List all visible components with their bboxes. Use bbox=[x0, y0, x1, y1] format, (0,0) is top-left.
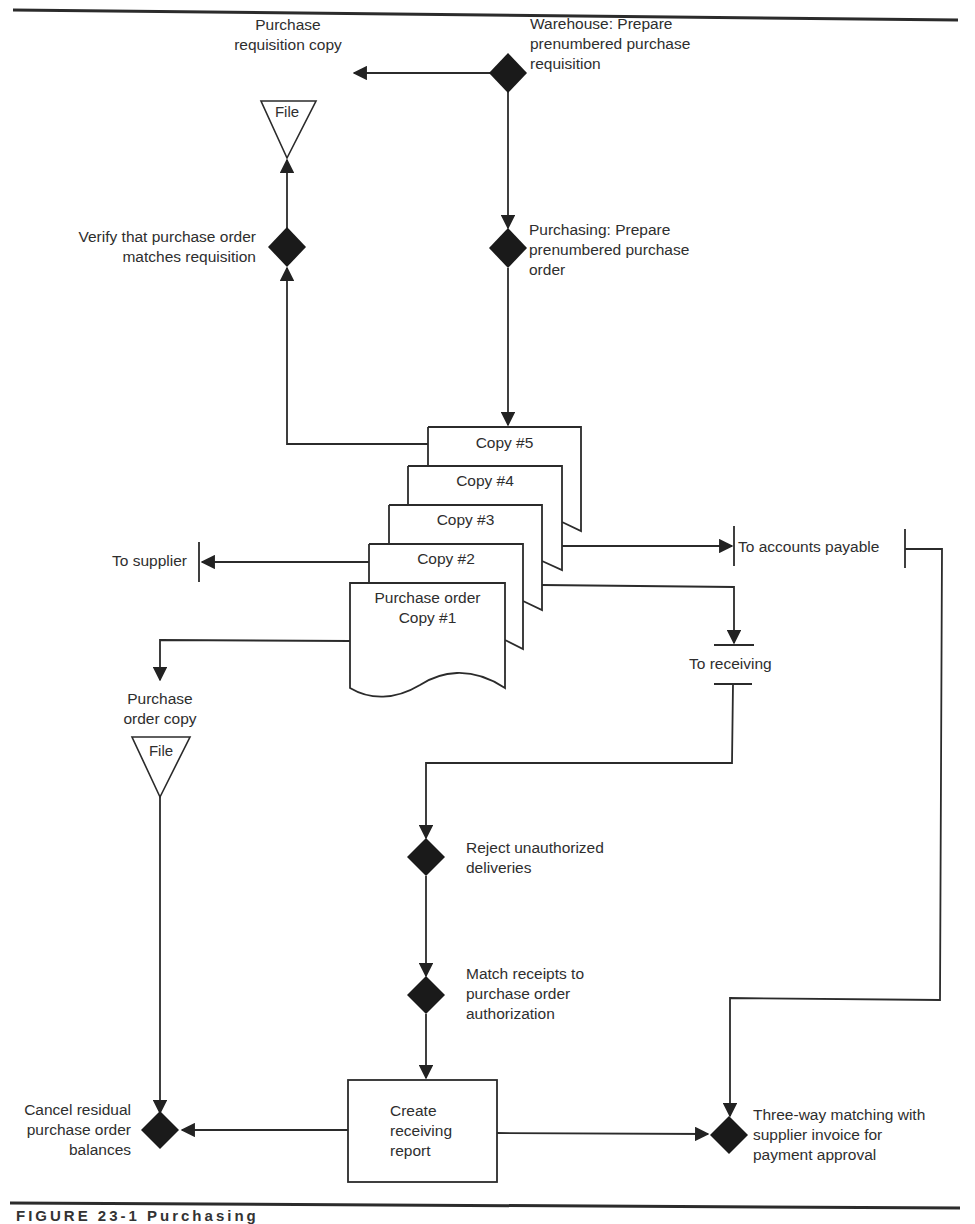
label-cancel: Cancel residual purchase order balances bbox=[10, 1100, 131, 1160]
label-copy-5: Copy #5 bbox=[428, 433, 581, 453]
arrow-receiving-to-reject bbox=[426, 684, 733, 838]
label-requisition-copy: Purchase requisition copy bbox=[229, 15, 347, 55]
diamond-match bbox=[407, 976, 445, 1014]
label-purchasing: Purchasing: Prepare prenumbered purchase… bbox=[529, 220, 689, 280]
diamond-cancel bbox=[141, 1111, 179, 1149]
label-copy-3: Copy #3 bbox=[389, 510, 542, 530]
label-verify: Verify that purchase order matches requi… bbox=[40, 227, 256, 267]
label-receiving-report: Create receiving report bbox=[390, 1101, 452, 1161]
diamond-three-way bbox=[710, 1116, 748, 1154]
figure-caption: FIGURE 23-1 Purchasing bbox=[16, 1207, 259, 1224]
label-copy-2: Copy #2 bbox=[369, 549, 523, 569]
arrow-to-receiving bbox=[542, 585, 734, 643]
top-rule bbox=[13, 10, 958, 20]
label-po-copy: Purchase order copy bbox=[110, 689, 210, 729]
file-label-po: File bbox=[146, 742, 176, 759]
arrow-report-to-three-way bbox=[497, 1133, 708, 1134]
label-reject: Reject unauthorized deliveries bbox=[466, 838, 604, 878]
arrow-copy5-to-verify bbox=[287, 268, 428, 444]
diamond-warehouse bbox=[489, 53, 527, 93]
diamond-reject bbox=[407, 838, 445, 876]
diamond-verify bbox=[268, 227, 306, 267]
label-match: Match receipts to purchase order authori… bbox=[466, 964, 584, 1024]
arrow-copy1-to-po-file bbox=[160, 640, 350, 680]
label-copy-1: Purchase order Copy #1 bbox=[350, 588, 505, 628]
label-three-way: Three-way matching with supplier invoice… bbox=[753, 1105, 925, 1165]
arrow-ap-to-three-way bbox=[730, 549, 942, 1116]
label-to-supplier: To supplier bbox=[112, 551, 187, 571]
diamond-purchasing bbox=[489, 228, 527, 268]
label-to-accounts-payable: To accounts payable bbox=[738, 537, 879, 557]
label-copy-4: Copy #4 bbox=[408, 471, 562, 491]
label-to-receiving: To receiving bbox=[689, 654, 772, 674]
file-label-requisition: File bbox=[272, 103, 302, 120]
label-warehouse: Warehouse: Prepare prenumbered purchase … bbox=[530, 14, 690, 74]
